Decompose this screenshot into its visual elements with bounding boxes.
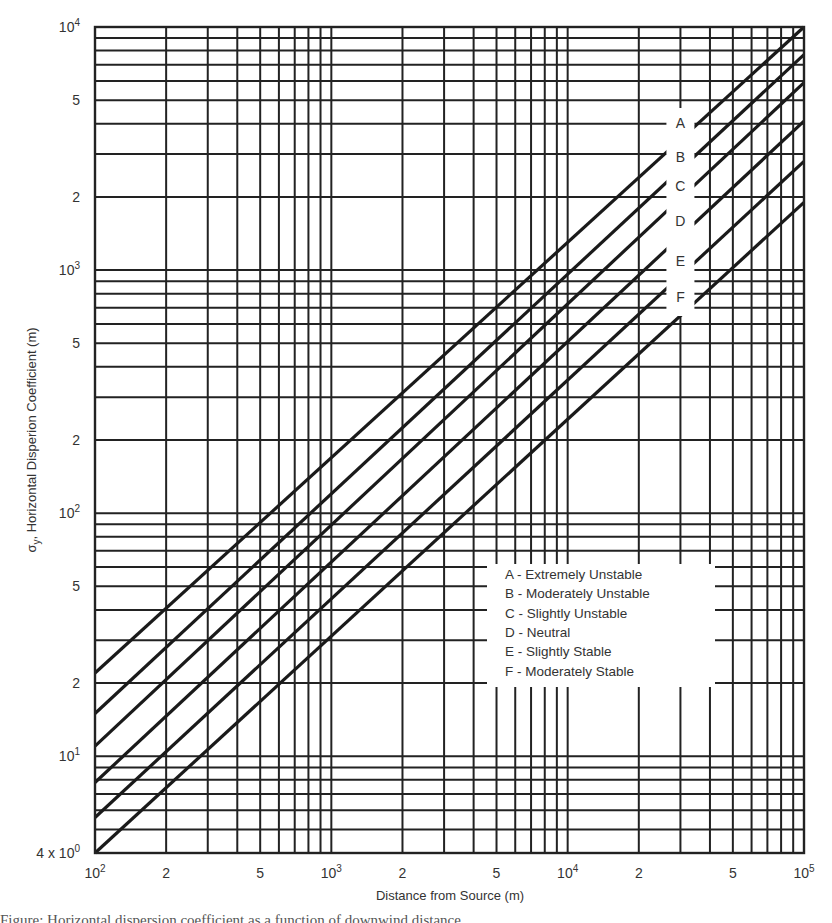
- dispersion-chart: ABCDEF A - Extremely UnstableB - Moderat…: [0, 0, 832, 923]
- legend-item-b: B - Moderately Unstable: [505, 586, 650, 601]
- x-tick-label: 104: [557, 863, 579, 881]
- series-letter-b: B: [676, 149, 685, 165]
- x-tick-label: 5: [493, 865, 501, 881]
- x-tick-label: 5: [729, 865, 737, 881]
- figure-caption-fragment: Figure: Horizontal dispersion coefficien…: [0, 912, 832, 923]
- y-axis-ticks: 4 x 100101251022510325104: [36, 17, 80, 861]
- series-letter-a: A: [676, 115, 686, 131]
- series-letter-f: F: [676, 289, 685, 305]
- legend-item-a: A - Extremely Unstable: [505, 567, 642, 582]
- y-tick-label: 2: [72, 189, 80, 205]
- grid-lines: [95, 27, 804, 853]
- x-tick-label: 2: [635, 865, 643, 881]
- series-letter-c: C: [675, 178, 685, 194]
- y-axis-label: σy, Horizontal Disperion Coefficient (m): [24, 327, 42, 552]
- label-gap-background: [666, 108, 694, 316]
- x-tick-label: 105: [793, 863, 815, 881]
- y-tick-label: 101: [59, 746, 81, 764]
- series-letter-d: D: [675, 213, 685, 229]
- x-tick-label: 2: [399, 865, 407, 881]
- series-letter-e: E: [676, 253, 685, 269]
- x-tick-label: 103: [321, 863, 343, 881]
- y-tick-label: 2: [72, 675, 80, 691]
- y-tick-label: 5: [72, 335, 80, 351]
- x-axis-ticks: 102251032510425105: [84, 863, 815, 881]
- legend-item-e: E - Slightly Stable: [505, 644, 612, 659]
- y-tick-label: 5: [72, 92, 80, 108]
- series-label-gap: [666, 108, 694, 316]
- y-tick-label: 5: [72, 578, 80, 594]
- legend-item-c: C - Slightly Unstable: [505, 606, 627, 621]
- y-tick-label: 102: [59, 503, 81, 521]
- x-tick-label: 5: [256, 865, 264, 881]
- x-tick-label: 2: [162, 865, 170, 881]
- x-tick-label: 102: [84, 863, 106, 881]
- legend-item-d: D - Neutral: [505, 625, 570, 640]
- y-tick-label: 103: [59, 260, 81, 278]
- y-tick-label: 104: [59, 17, 81, 35]
- legend: A - Extremely UnstableB - Moderately Uns…: [487, 564, 715, 687]
- y-tick-label: 2: [72, 432, 80, 448]
- y-tick-label: 4 x 100: [36, 843, 80, 861]
- legend-item-f: F - Moderately Stable: [505, 664, 634, 679]
- x-axis-label: Distance from Source (m): [376, 888, 524, 903]
- series-line-e: [95, 161, 804, 817]
